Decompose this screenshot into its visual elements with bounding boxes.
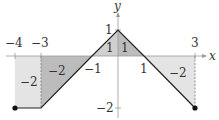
- graph-canvas: x y −4 −3 −1 1 3 1 −2 −2 −2 1 1 −2: [0, 0, 219, 120]
- tick-label-x-3: 3: [191, 36, 199, 50]
- endpoint-left-dot: [12, 105, 17, 110]
- tick-label-x-1: 1: [140, 62, 148, 76]
- tick-label-y-m2: −2: [96, 101, 114, 115]
- area-label-rect-left: −2: [20, 75, 38, 89]
- y-axis-label: y: [113, 0, 121, 13]
- tick-label-x-m3: −3: [31, 36, 49, 50]
- area-label-tri-right: 1: [121, 41, 129, 55]
- tick-label-x-m1: −1: [84, 62, 102, 76]
- area-label-trap-left: −2: [48, 64, 66, 78]
- x-axis-arrow-icon: [202, 54, 207, 58]
- tick-label-y-1: 1: [105, 23, 113, 37]
- x-axis-label: x: [209, 49, 216, 63]
- endpoint-right-dot: [192, 105, 197, 110]
- tick-label-x-m4: −4: [5, 36, 23, 50]
- area-label-tri-right-neg: −2: [169, 66, 187, 80]
- area-label-tri-left: 1: [106, 41, 114, 55]
